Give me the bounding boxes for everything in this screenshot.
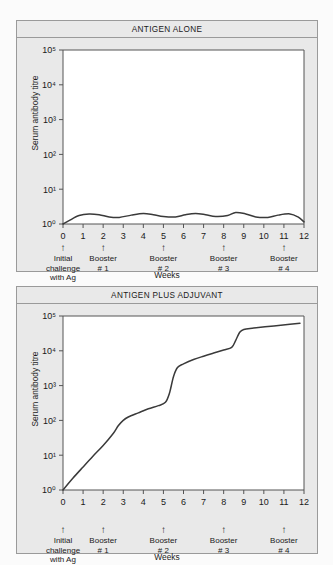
annotation-text: Booster # 1 — [89, 254, 117, 273]
annotation-text: Booster # 2 — [150, 536, 178, 555]
chart-svg-top: 10⁰10¹10²10³10⁴10⁵0123456789101112 — [17, 38, 317, 272]
x-tick-label: 11 — [279, 497, 288, 507]
plot-area-bottom: Serum antibody titre 10⁰10¹10²10³10⁴10⁵0… — [17, 304, 317, 553]
up-arrow-icon: ↑ — [70, 243, 136, 253]
annotation-booster-3: ↑Booster # 3 — [191, 525, 257, 555]
y-tick-label: 10⁴ — [42, 80, 56, 90]
y-tick-label: 10⁵ — [42, 311, 56, 321]
x-tick-label: 9 — [241, 231, 246, 241]
plot-area-top: Serum antibody titre 10⁰10¹10²10³10⁴10⁵0… — [17, 38, 317, 271]
y-tick-label: 10² — [43, 416, 56, 426]
x-tick-label: 4 — [141, 497, 146, 507]
x-tick-label: 6 — [181, 497, 186, 507]
x-tick-label: 8 — [221, 231, 226, 241]
y-tick-label: 10⁰ — [42, 485, 56, 495]
x-tick-label: 5 — [161, 231, 166, 241]
x-tick-label: 7 — [201, 231, 206, 241]
y-tick-label: 10¹ — [43, 185, 56, 195]
panel-antigen-plus-adjuvant: ANTIGEN PLUS ADJUVANT Serum antibody tit… — [16, 286, 318, 554]
up-arrow-icon: ↑ — [191, 243, 257, 253]
up-arrow-icon: ↑ — [130, 243, 196, 253]
x-tick-label: 3 — [121, 497, 126, 507]
up-arrow-icon: ↑ — [70, 525, 136, 535]
x-tick-label: 12 — [299, 497, 309, 507]
annotation-text: Booster # 3 — [210, 536, 238, 555]
annotation-booster-4: ↑Booster # 4 — [251, 525, 317, 555]
x-tick-label: 3 — [121, 231, 126, 241]
x-tick-label: 9 — [241, 497, 246, 507]
y-tick-label: 10³ — [43, 381, 56, 391]
x-tick-label: 2 — [101, 497, 106, 507]
x-tick-label: 10 — [259, 231, 269, 241]
annotation-booster-1: ↑Booster # 1 — [70, 243, 136, 273]
x-tick-label: 7 — [201, 497, 206, 507]
x-tick-label: 4 — [141, 231, 146, 241]
up-arrow-icon: ↑ — [251, 525, 317, 535]
annotation-text: Booster # 4 — [270, 536, 298, 555]
x-tick-label: 12 — [299, 231, 309, 241]
annotation-booster-2: ↑Booster # 2 — [130, 243, 196, 273]
annotation-text: Booster # 4 — [270, 254, 298, 273]
x-tick-label: 8 — [221, 497, 226, 507]
x-tick-label: 2 — [101, 231, 106, 241]
y-tick-label: 10⁰ — [42, 219, 56, 229]
x-tick-label: 6 — [181, 231, 186, 241]
y-tick-label: 10³ — [43, 115, 56, 125]
annotation-booster-3: ↑Booster # 3 — [191, 243, 257, 273]
annotation-text: Booster # 2 — [150, 254, 178, 273]
x-tick-label: 5 — [161, 497, 166, 507]
x-tick-label: 10 — [259, 497, 269, 507]
x-tick-label: 0 — [60, 231, 65, 241]
up-arrow-icon: ↑ — [251, 243, 317, 253]
up-arrow-icon: ↑ — [130, 525, 196, 535]
up-arrow-icon: ↑ — [191, 525, 257, 535]
panel-title-top: ANTIGEN ALONE — [17, 21, 317, 38]
y-tick-label: 10² — [43, 150, 56, 160]
panel-antigen-alone: ANTIGEN ALONE Serum antibody titre 10⁰10… — [16, 20, 318, 272]
y-tick-label: 10¹ — [43, 451, 56, 461]
annotation-booster-4: ↑Booster # 4 — [251, 243, 317, 273]
chart-svg-bottom: 10⁰10¹10²10³10⁴10⁵0123456789101112 — [17, 304, 317, 554]
panel-title-bottom: ANTIGEN PLUS ADJUVANT — [17, 287, 317, 304]
annotation-booster-2: ↑Booster # 2 — [130, 525, 196, 555]
x-tick-label: 1 — [81, 231, 86, 241]
y-tick-label: 10⁴ — [42, 346, 56, 356]
x-tick-label: 11 — [279, 231, 288, 241]
y-tick-label: 10⁵ — [42, 45, 56, 55]
annotation-text: Booster # 1 — [89, 536, 117, 555]
x-tick-label: 1 — [81, 497, 86, 507]
annotation-booster-1: ↑Booster # 1 — [70, 525, 136, 555]
x-tick-label: 0 — [60, 497, 65, 507]
annotation-text: Booster # 3 — [210, 254, 238, 273]
